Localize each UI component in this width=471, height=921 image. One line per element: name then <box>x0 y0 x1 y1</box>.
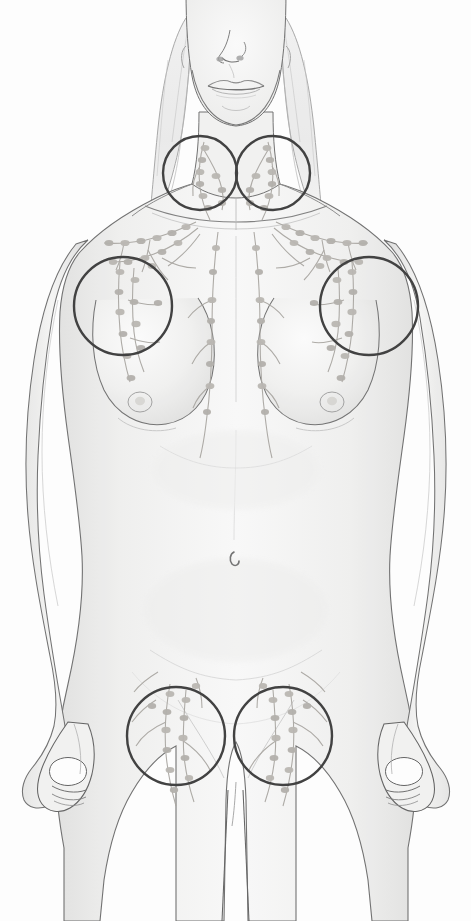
anatomy-illustration <box>0 0 471 921</box>
illustration-canvas: y p <box>0 0 471 921</box>
paper-texture <box>0 0 471 921</box>
